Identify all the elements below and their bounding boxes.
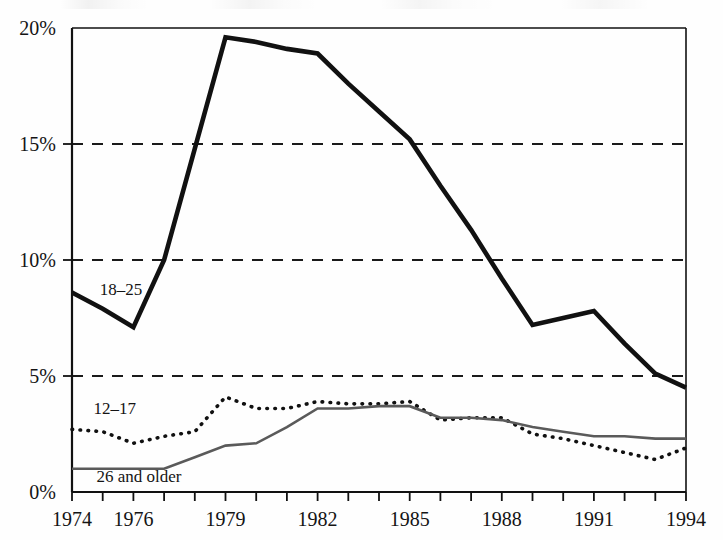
x-axis-label-1985: 1985	[390, 508, 430, 530]
series-label-0: 18–25	[100, 280, 143, 299]
x-axis-label-1974: 1974	[52, 508, 92, 530]
y-axis-label-10pct: 10%	[19, 249, 56, 271]
x-tick-marks-group	[72, 492, 686, 501]
x-tick-labels-group: 19741976197919821985198819911994	[52, 508, 706, 530]
y-axis-label-20pct: 20%	[19, 17, 56, 39]
x-axis-label-1979: 1979	[206, 508, 246, 530]
x-axis-label-1976: 1976	[113, 508, 153, 530]
line-chart-canvas: 0%5%10%15%20% 19741976197919821985198819…	[0, 0, 723, 540]
chart-figure: 0%5%10%15%20% 19741976197919821985198819…	[0, 0, 723, 540]
y-tick-marks-group	[63, 144, 72, 376]
series-label-2: 26 and older	[97, 467, 182, 486]
y-tick-labels-group: 0%5%10%15%20%	[19, 17, 56, 503]
y-axis-label-15pct: 15%	[19, 133, 56, 155]
x-axis-label-1982: 1982	[298, 508, 338, 530]
x-axis-label-1994: 1994	[666, 508, 706, 530]
y-axis-label-0pct: 0%	[29, 481, 56, 503]
series-line-0	[72, 37, 686, 387]
x-axis-label-1988: 1988	[482, 508, 522, 530]
x-axis-label-1991: 1991	[574, 508, 614, 530]
series-label-1: 12–17	[93, 399, 136, 418]
y-axis-label-5pct: 5%	[29, 365, 56, 387]
data-series-group	[72, 37, 686, 469]
